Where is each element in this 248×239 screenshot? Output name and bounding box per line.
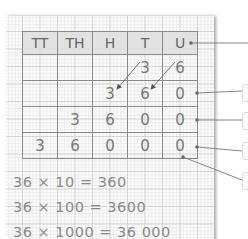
label-box — [242, 142, 248, 160]
shift-arrow — [151, 62, 175, 89]
label-box — [242, 112, 248, 130]
equation: 36 × 1000 = 36 000 — [13, 224, 171, 239]
equation: 36 × 100 = 3600 — [13, 199, 146, 215]
label-box — [242, 84, 248, 102]
equation: 36 × 10 = 360 — [13, 174, 127, 190]
pointer-line — [197, 91, 242, 93]
label-box — [242, 172, 248, 190]
pointer-line — [183, 157, 242, 180]
shift-arrow — [117, 62, 140, 89]
pointer-line — [197, 147, 242, 151]
